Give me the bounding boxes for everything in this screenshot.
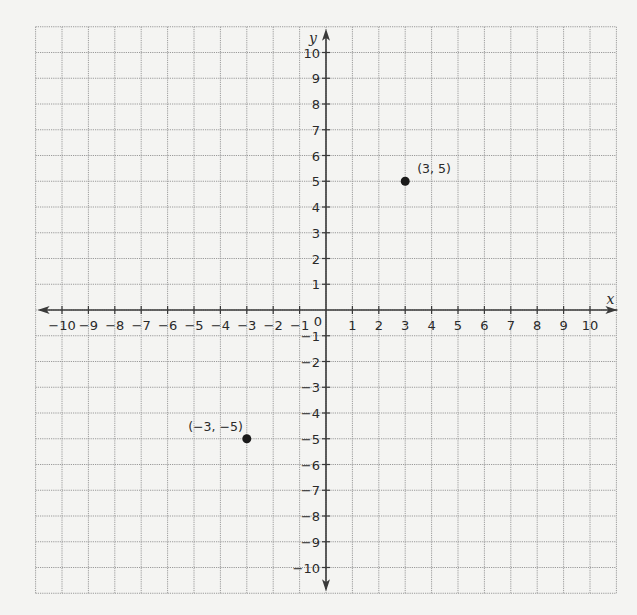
x-tick-label: 5 (454, 318, 462, 333)
x-tick-label: 6 (480, 318, 488, 333)
x-tick-label: 9 (559, 318, 567, 333)
x-tick-label: 2 (375, 318, 383, 333)
coordinate-plane: xy−10−9−8−7−6−5−4−3−2−112345678910109876… (0, 0, 637, 615)
point-label: (3, 5) (417, 161, 451, 176)
y-tick-label: 10 (303, 46, 320, 61)
y-tick-label: −4 (301, 406, 320, 421)
axes (38, 29, 618, 592)
y-tick-label: 6 (312, 149, 320, 164)
x-tick-label: −2 (264, 318, 283, 333)
y-tick-label: −7 (301, 483, 320, 498)
x-tick-label: −4 (211, 318, 230, 333)
y-tick-label: 5 (312, 174, 320, 189)
x-tick-label: −6 (158, 318, 177, 333)
x-tick-label: 4 (427, 318, 435, 333)
y-tick-label: 7 (312, 123, 320, 138)
y-tick-label: −6 (301, 458, 320, 473)
y-tick-label: −8 (301, 509, 320, 524)
y-tick-label: 1 (312, 277, 320, 292)
x-tick-label: −7 (132, 318, 151, 333)
y-tick-label: 3 (312, 226, 320, 241)
x-tick-label: −5 (184, 318, 203, 333)
y-axis-label: y (308, 30, 318, 46)
x-tick-label: 8 (533, 318, 541, 333)
x-axis-label: x (606, 291, 614, 307)
x-tick-label: −3 (237, 318, 256, 333)
origin-label: 0 (314, 314, 322, 329)
y-tick-label: −5 (301, 432, 320, 447)
x-tick-label: −9 (79, 318, 98, 333)
y-tick-label: 4 (312, 200, 320, 215)
data-point (242, 434, 251, 443)
y-tick-label: −9 (301, 535, 320, 550)
y-tick-label: 8 (312, 97, 320, 112)
y-tick-label: −3 (301, 380, 320, 395)
y-tick-label: 9 (312, 71, 320, 86)
tick-labels: xy−10−9−8−7−6−5−4−3−2−112345678910109876… (48, 30, 614, 576)
y-tick-label: −1 (301, 329, 320, 344)
x-tick-label: 10 (582, 318, 599, 333)
y-tick-label: 2 (312, 252, 320, 267)
x-tick-label: 1 (348, 318, 356, 333)
x-tick-label: −8 (105, 318, 124, 333)
x-tick-label: 3 (401, 318, 409, 333)
x-tick-label: 7 (507, 318, 515, 333)
data-point (401, 177, 410, 186)
x-tick-label: −10 (48, 318, 75, 333)
y-tick-label: −10 (293, 561, 320, 576)
y-tick-label: −2 (301, 355, 320, 370)
point-label: (−3, −5) (188, 419, 243, 434)
